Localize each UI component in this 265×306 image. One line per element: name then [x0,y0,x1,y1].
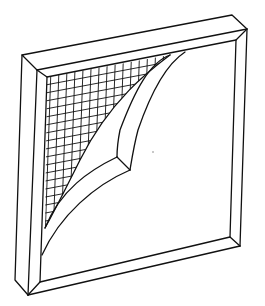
frame-inner-top-edge [47,40,236,77]
frame-bottom-edge [28,237,240,295]
frame-top-edge [22,15,247,70]
diagram-canvas [0,0,265,306]
speck [152,151,153,152]
frame-left-side [15,55,47,295]
grid-mesh [40,40,200,240]
frame-right-side [230,29,247,246]
